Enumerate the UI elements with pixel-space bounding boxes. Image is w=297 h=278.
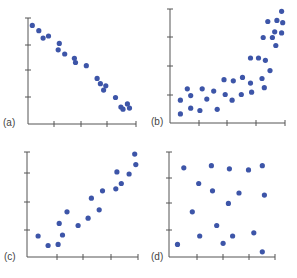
data-point: [133, 162, 138, 167]
data-point: [190, 209, 195, 214]
data-point: [262, 85, 267, 90]
data-point: [114, 169, 119, 174]
data-point: [36, 28, 41, 33]
data-point: [230, 233, 235, 238]
data-point: [181, 165, 186, 170]
data-point: [30, 23, 35, 28]
data-point: [175, 242, 180, 247]
data-point: [86, 216, 91, 221]
scatter-panel-a: (a): [0, 0, 148, 139]
scatter-panel-d: (d): [148, 139, 296, 278]
data-point: [236, 190, 241, 195]
data-point: [97, 207, 102, 212]
data-point: [279, 30, 284, 35]
data-point: [209, 163, 214, 168]
data-point: [64, 209, 69, 214]
data-point: [56, 242, 61, 247]
data-point: [178, 111, 183, 116]
data-point: [95, 76, 100, 81]
data-point: [60, 232, 65, 237]
data-point: [73, 60, 78, 65]
data-point: [265, 19, 270, 24]
scatter-plot-c: [0, 139, 148, 278]
data-point: [263, 58, 268, 63]
data-point: [127, 171, 132, 176]
scatter-plot-a: [0, 0, 148, 139]
data-point: [188, 93, 193, 98]
data-point: [260, 163, 265, 168]
data-point: [260, 249, 265, 254]
data-point: [221, 77, 226, 82]
data-point: [197, 108, 202, 113]
data-point: [273, 43, 278, 48]
data-point: [200, 86, 205, 91]
panel-label-a: (a): [3, 118, 15, 128]
data-point: [262, 193, 267, 198]
panel-label-b: (b): [151, 117, 163, 127]
data-point: [113, 95, 118, 100]
data-point: [178, 98, 183, 103]
data-point: [251, 230, 256, 235]
data-point: [119, 181, 124, 186]
data-point: [57, 41, 62, 46]
data-point: [248, 81, 253, 86]
data-point: [221, 241, 226, 246]
data-point: [279, 9, 284, 14]
data-point: [280, 20, 285, 25]
data-point: [215, 107, 220, 112]
data-point: [101, 88, 106, 93]
data-point: [270, 35, 275, 40]
data-point: [76, 223, 81, 228]
data-point: [227, 166, 232, 171]
data-point: [196, 181, 201, 186]
data-point: [239, 92, 244, 97]
panel-label-c: (c): [4, 252, 16, 262]
data-point: [36, 233, 41, 238]
data-point: [185, 86, 190, 91]
scatter-plot-d: [148, 139, 297, 278]
data-point: [197, 233, 202, 238]
data-point: [249, 90, 254, 95]
data-point: [62, 51, 67, 56]
panel-label-d: (d): [151, 252, 163, 262]
data-point: [246, 167, 251, 172]
data-point: [211, 89, 216, 94]
data-point: [230, 98, 235, 103]
data-point: [132, 152, 137, 157]
data-point: [272, 29, 277, 34]
data-point: [57, 221, 62, 226]
data-point: [127, 106, 132, 111]
data-point: [248, 55, 253, 60]
data-point: [188, 106, 193, 111]
data-point: [240, 75, 245, 80]
data-point: [56, 47, 61, 52]
data-point: [267, 68, 272, 73]
scatter-plot-b: [148, 0, 297, 139]
data-point: [261, 35, 266, 40]
data-point: [214, 223, 219, 228]
data-point: [89, 196, 94, 201]
data-point: [120, 107, 125, 112]
scatter-panel-b: (b): [148, 0, 296, 139]
data-point: [210, 188, 215, 193]
data-point: [256, 55, 261, 60]
data-point: [231, 78, 236, 83]
data-point: [113, 186, 118, 191]
data-point: [46, 33, 51, 38]
scatter-panel-c: (c): [0, 139, 148, 278]
data-point: [46, 243, 51, 248]
data-point: [259, 76, 264, 81]
data-point: [226, 201, 231, 206]
data-point: [98, 81, 103, 86]
data-point: [274, 18, 279, 23]
data-point: [84, 63, 89, 68]
data-point: [41, 36, 46, 41]
data-point: [100, 188, 105, 193]
data-point: [204, 97, 209, 102]
data-point: [223, 92, 228, 97]
